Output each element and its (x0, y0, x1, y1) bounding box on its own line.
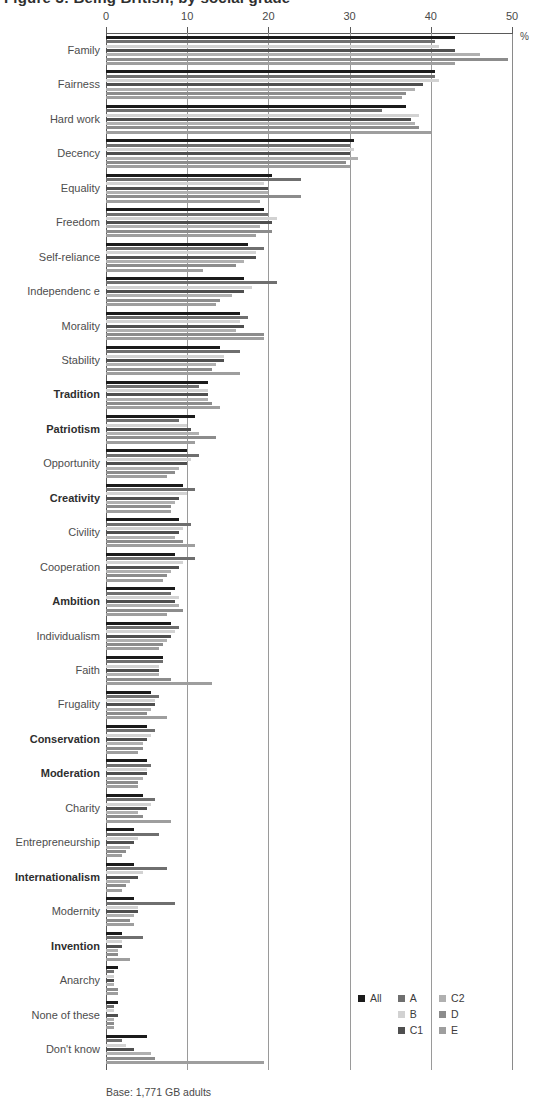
legend-item-e[interactable]: E (439, 1024, 464, 1036)
bar-d-decency (106, 161, 346, 164)
bar-d-civility (106, 540, 183, 543)
bar-a-hard-work (106, 109, 382, 112)
legend-swatch-icon (358, 995, 365, 1002)
bar-d-fairness (106, 92, 406, 95)
category-label: Faith (0, 664, 100, 676)
bar-a-civility (106, 523, 191, 526)
bar-a-equality (106, 178, 301, 181)
bar-b-cooperation (106, 561, 183, 564)
bar-d-charity (106, 815, 143, 818)
bar-d-internationalism (106, 884, 126, 887)
category-label: Individualism (0, 630, 100, 642)
legend-label: All (370, 992, 382, 1004)
bar-all-invention (106, 932, 122, 935)
legend-item-b[interactable]: B (398, 1008, 423, 1020)
bar-c1-don-t-know (106, 1048, 134, 1051)
bar-all-hard-work (106, 105, 406, 108)
bar-a-independenc-e (106, 281, 277, 284)
bar-a-opportunity (106, 454, 199, 457)
bar-c2-tradition (106, 398, 208, 401)
bar-e-freedom (106, 234, 256, 237)
bar-b-equality (106, 182, 264, 185)
category-label: Family (0, 44, 100, 56)
bar-all-opportunity (106, 449, 187, 452)
category-label: Frugality (0, 698, 100, 710)
category-label: Entrepreneurship (0, 836, 100, 848)
bar-d-none-of-these (106, 1022, 114, 1025)
bar-all-faith (106, 656, 163, 659)
bar-b-ambition (106, 596, 179, 599)
bar-c1-faith (106, 669, 159, 672)
bar-all-don-t-know (106, 1035, 147, 1038)
bar-b-entrepreneurship (106, 837, 138, 840)
bar-c1-cooperation (106, 566, 179, 569)
bar-c2-equality (106, 191, 268, 194)
bar-e-family (106, 62, 455, 65)
bar-c1-self-reliance (106, 256, 256, 259)
bar-c2-decency (106, 157, 358, 160)
bar-c1-equality (106, 187, 268, 190)
bar-a-morality (106, 316, 248, 319)
category-label: Modernity (0, 905, 100, 917)
bar-e-frugality (106, 716, 167, 719)
x-tick-label-50: 50 (506, 10, 518, 22)
bar-d-faith (106, 678, 171, 681)
bar-all-conservation (106, 725, 147, 728)
category-label: Independenc e (0, 285, 100, 297)
bar-e-don-t-know (106, 1061, 264, 1064)
bar-c1-family (106, 49, 455, 52)
bar-all-freedom (106, 208, 264, 211)
bar-e-tradition (106, 406, 220, 409)
bar-a-creativity (106, 488, 195, 491)
bar-c2-freedom (106, 225, 260, 228)
bar-a-cooperation (106, 557, 195, 560)
bar-b-hard-work (106, 114, 419, 117)
x-tick-label-20: 20 (262, 10, 274, 22)
bar-c2-charity (106, 811, 138, 814)
bar-b-moderation (106, 768, 147, 771)
legend-swatch-icon (439, 1027, 446, 1034)
legend-item-c1[interactable]: C1 (398, 1024, 423, 1036)
bar-c1-internationalism (106, 876, 138, 879)
bar-b-tradition (106, 389, 208, 392)
bar-a-individualism (106, 626, 179, 629)
bar-a-internationalism (106, 867, 167, 870)
bar-d-opportunity (106, 471, 175, 474)
category-label: Fairness (0, 78, 100, 90)
bar-c2-moderation (106, 777, 143, 780)
legend-item-d[interactable]: D (439, 1008, 464, 1020)
bar-b-invention (106, 940, 122, 943)
legend-item-c2[interactable]: C2 (439, 992, 464, 1004)
bar-e-patriotism (106, 441, 195, 444)
bar-e-charity (106, 820, 171, 823)
bar-c1-moderation (106, 772, 147, 775)
legend-item-a[interactable]: A (398, 992, 423, 1004)
bar-a-stability (106, 350, 240, 353)
base-note: Base: 1,771 GB adults (106, 1086, 211, 1098)
bar-b-self-reliance (106, 251, 256, 254)
bar-c1-frugality (106, 703, 155, 706)
bar-c2-none-of-these (106, 1018, 114, 1021)
x-tick-label-30: 30 (343, 10, 355, 22)
bar-all-anarchy (106, 966, 118, 969)
bar-d-patriotism (106, 436, 216, 439)
bar-all-family (106, 36, 455, 39)
bar-a-anarchy (106, 970, 114, 973)
bar-c1-stability (106, 359, 224, 362)
legend-item-all[interactable]: All (358, 992, 382, 1004)
bar-d-anarchy (106, 988, 118, 991)
bar-b-don-t-know (106, 1044, 126, 1047)
bar-all-tradition (106, 381, 208, 384)
bar-a-faith (106, 660, 163, 663)
bar-all-morality (106, 312, 240, 315)
bar-b-internationalism (106, 871, 143, 874)
bar-e-anarchy (106, 992, 118, 995)
x-tick-label-0: 0 (103, 10, 109, 22)
legend-column-3: C2DE (439, 992, 464, 1036)
bar-all-equality (106, 174, 272, 177)
bar-d-hard-work (106, 126, 419, 129)
bar-c2-internationalism (106, 880, 130, 883)
bar-a-fairness (106, 75, 435, 78)
bar-c1-none-of-these (106, 1014, 118, 1017)
bar-e-hard-work (106, 131, 431, 134)
